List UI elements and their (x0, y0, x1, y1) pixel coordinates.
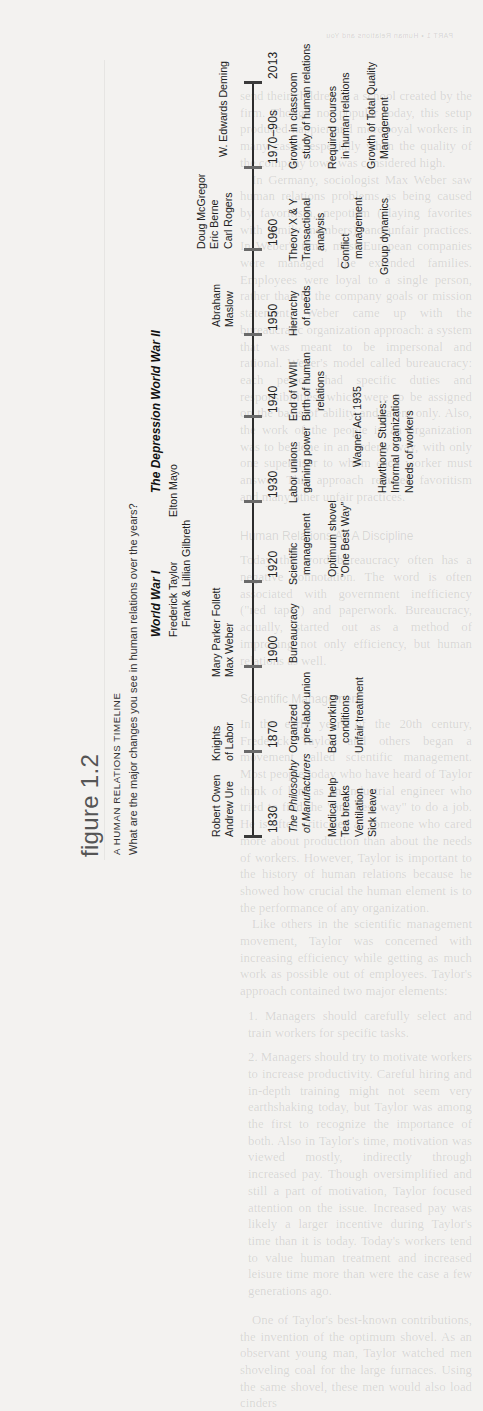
people-1920: Frederick Taylor Frank & Lillian Gilbret… (167, 520, 194, 637)
timeline-axis (252, 81, 254, 837)
year-label: 1870 (266, 721, 280, 749)
year-label: 1950 (266, 304, 280, 332)
event-1970s-growth: Growth in classroom study of human relat… (287, 44, 314, 169)
event-1920-sci: Scientific management (287, 513, 314, 585)
event-1970s-tqm: Growth of Total Quality Management (365, 62, 392, 169)
bg-paragraph: 2. Managers should try to motivate worke… (248, 1049, 472, 1300)
people-1960: Doug McGregor Eric Berne Carl Rogers (195, 174, 235, 249)
tick-1950 (244, 333, 262, 336)
event-1830-benefits: Medical help Tea breaks Ventilation Sick… (326, 778, 379, 837)
tick-1920 (244, 580, 262, 583)
bg-paragraph: 1. Managers should carefully select and … (248, 1008, 472, 1041)
event-1940: End of WWII Birth of human relations (287, 352, 327, 421)
year-label: 1960 (266, 219, 280, 247)
event-1870-union: Organized pre-labor union (287, 672, 314, 753)
event-1930-unions: Labor unions gaining power (287, 427, 314, 503)
event-1960-theory: Theory X & Y Transactional analysis (287, 198, 327, 261)
people-1830: Robert Owen Andrew Ure (210, 775, 237, 837)
bg-paragraph: Like others in the scientific management… (240, 916, 472, 1000)
tick-1870 (244, 750, 262, 753)
event-1830-book: The Philosophy of Manufacturers (287, 754, 314, 834)
era-world-war-1: World War I (149, 571, 163, 637)
year-label: 1830 (266, 806, 280, 834)
figure-title: A HUMAN RELATIONS TIMELINE (111, 693, 122, 855)
tick-1830 (244, 835, 262, 838)
year-label: 1900 (266, 636, 280, 664)
event-1900: Bureaucracy (287, 604, 300, 663)
tick-1940 (244, 415, 262, 418)
event-1970s-courses: Required courses in human relations (326, 72, 353, 169)
figure-question: What are the major changes you see in hu… (127, 503, 139, 855)
people-1930: Elton Mayo (167, 464, 180, 517)
bg-paragraph: One of Taylor's best-known contributions… (240, 1312, 472, 1411)
people-1870: Knights of Labor (210, 722, 237, 761)
event-1870-conditions: Bad working conditions Unfair treatment (326, 677, 366, 753)
tick-2013 (244, 81, 262, 84)
event-1930-wagner: Wagner Act 1935 (351, 386, 364, 467)
event-1930-hawthorne: Hawthorne Studies: Informal organization… (376, 394, 416, 493)
event-1960-conflict: Conflict management (339, 197, 366, 269)
figure-number: figure 1.2 (76, 754, 104, 857)
event-1960-group: Group dynamics (378, 198, 391, 275)
people-1970s: W. Edwards Deming (217, 61, 230, 157)
event-1920-shovel: Optimum shovel “One Best Way” (326, 500, 353, 577)
people-1950: Abraham Maslow (210, 284, 237, 327)
year-label: 1930 (266, 471, 280, 499)
tick-1960 (244, 248, 262, 251)
people-1900: Mary Parker Follett Max Weber (210, 588, 237, 677)
era-depression-wwii: The Depression World War II (149, 330, 163, 493)
year-label: 2013 (266, 52, 280, 80)
tick-1970s (244, 166, 262, 169)
year-label: 1940 (266, 386, 280, 414)
event-1950: Hierarchy of needs (287, 285, 314, 336)
tick-1900 (244, 665, 262, 668)
tick-1930 (244, 500, 262, 503)
year-label: 1920 (266, 551, 280, 579)
year-label: 1970–90s (266, 110, 280, 164)
